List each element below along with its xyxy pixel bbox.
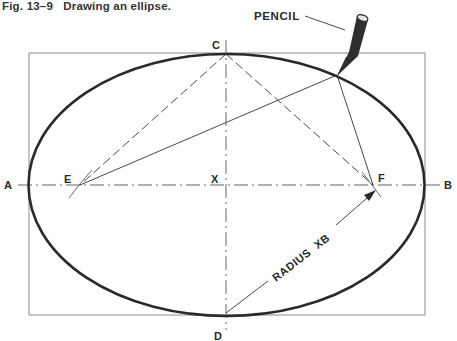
- label-c: C: [212, 39, 220, 51]
- label-b: B: [444, 179, 452, 191]
- label-pencil: PENCIL: [254, 10, 300, 22]
- label-f: F: [378, 172, 385, 184]
- line-c-to-f: [226, 54, 373, 185]
- line-c-to-e: [80, 54, 226, 185]
- label-d: D: [214, 330, 222, 341]
- label-radius-xb: RADIUS XB: [270, 231, 332, 283]
- label-a: A: [4, 179, 12, 191]
- ellipse-diagram: PENCIL C A E X F B D RADIUS XB: [0, 0, 457, 341]
- label-e: E: [64, 173, 71, 185]
- radius-line-lower: [226, 281, 268, 313]
- label-x: X: [211, 173, 219, 185]
- string-e-to-pencil: [80, 75, 337, 185]
- pencil-icon: [337, 13, 369, 76]
- pencil-leader: [305, 16, 345, 30]
